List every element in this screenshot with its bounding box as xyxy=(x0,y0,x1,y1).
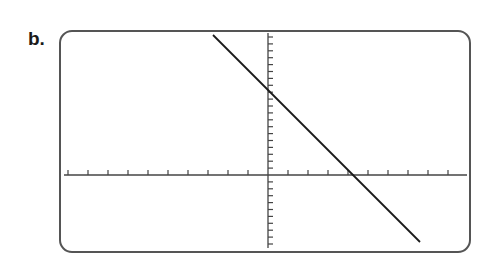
x-axis xyxy=(64,170,467,175)
graph-frame xyxy=(60,31,470,252)
plotted-line xyxy=(213,35,420,242)
graph-window xyxy=(0,0,490,275)
y-axis xyxy=(268,33,273,248)
